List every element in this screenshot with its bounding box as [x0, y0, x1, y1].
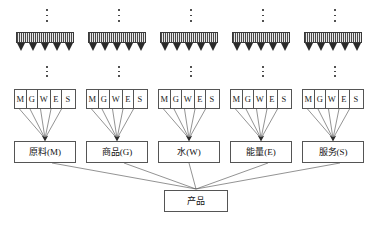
product-box[interactable]: 产品: [164, 190, 228, 212]
ellipsis-dot: [46, 20, 48, 22]
cell-e[interactable]: E: [123, 90, 135, 108]
ellipsis-dot: [334, 9, 336, 11]
cell-w[interactable]: W: [254, 90, 267, 108]
cell-s[interactable]: S: [134, 90, 146, 108]
ellipsis-dot: [190, 15, 192, 17]
resource-box-raw-material[interactable]: 原料(M): [14, 141, 76, 163]
ellipsis-dot: [262, 71, 264, 73]
down-arrow-icon: [305, 43, 313, 51]
ellipsis-dot: [46, 71, 48, 73]
resource-box-goods[interactable]: 商品(G): [86, 141, 148, 163]
source-arrow-row: [17, 43, 73, 51]
cell-w[interactable]: W: [326, 90, 339, 108]
down-arrow-icon: [17, 43, 25, 51]
ellipsis-dot: [118, 15, 120, 17]
cell-w[interactable]: W: [182, 90, 195, 108]
ellipsis-dot: [118, 20, 120, 22]
cell-s[interactable]: S: [62, 90, 74, 108]
cell-w[interactable]: W: [110, 90, 123, 108]
ellipsis-dot: [334, 71, 336, 73]
cell-g[interactable]: G: [99, 90, 111, 108]
down-arrow-icon: [113, 43, 121, 51]
hatched-source-bar: [232, 32, 290, 43]
resource-box-energy[interactable]: 能量(E): [230, 141, 292, 163]
top-ellipsis-icon: [184, 9, 198, 22]
ellipsis-dot: [190, 75, 192, 77]
resource-box-water[interactable]: 水(W): [158, 141, 220, 163]
down-arrow-icon: [329, 43, 337, 51]
middle-ellipsis-icon: [112, 66, 126, 77]
source-arrow-row: [161, 43, 217, 51]
middle-ellipsis-icon: [328, 66, 342, 77]
ellipsis-dot: [46, 15, 48, 17]
cell-s[interactable]: S: [206, 90, 218, 108]
fan-lines-col-m: [20, 109, 62, 139]
down-arrow-icon: [341, 43, 349, 51]
down-arrow-icon: [233, 43, 241, 51]
mgwes-cell-row: M G W E S: [302, 89, 364, 109]
top-ellipsis-icon: [112, 9, 126, 22]
cell-m[interactable]: M: [303, 90, 315, 108]
down-arrow-icon: [197, 43, 205, 51]
cell-s[interactable]: S: [350, 90, 362, 108]
down-arrow-icon: [353, 43, 361, 51]
down-arrow-icon: [137, 43, 145, 51]
ellipsis-dot: [334, 66, 336, 68]
top-ellipsis-icon: [328, 9, 342, 22]
cell-m[interactable]: M: [231, 90, 243, 108]
mgwes-cell-row: M G W E S: [86, 89, 148, 109]
mgwes-cell-row: M G W E S: [14, 89, 76, 109]
down-arrow-icon: [53, 43, 61, 51]
cell-m[interactable]: M: [87, 90, 99, 108]
ellipsis-dot: [46, 75, 48, 77]
down-arrow-icon: [185, 43, 193, 51]
cell-e[interactable]: E: [51, 90, 63, 108]
cell-g[interactable]: G: [315, 90, 327, 108]
ellipsis-dot: [190, 9, 192, 11]
fan-lines-col-g: [92, 109, 134, 139]
ellipsis-dot: [118, 75, 120, 77]
down-arrow-icon: [161, 43, 169, 51]
cell-s[interactable]: S: [278, 90, 290, 108]
down-arrow-icon: [173, 43, 181, 51]
ellipsis-dot: [334, 75, 336, 77]
diagram-canvas: M G W E S 原料(M) M G W: [0, 0, 391, 225]
source-arrow-row: [233, 43, 289, 51]
down-arrow-icon: [101, 43, 109, 51]
cell-g[interactable]: G: [171, 90, 183, 108]
down-arrow-icon: [281, 43, 289, 51]
cell-g[interactable]: G: [243, 90, 255, 108]
down-arrow-icon: [317, 43, 325, 51]
cell-m[interactable]: M: [15, 90, 27, 108]
middle-ellipsis-icon: [40, 66, 54, 77]
fan-lines-col-e: [236, 109, 278, 139]
hatched-source-bar: [16, 32, 74, 43]
cell-w[interactable]: W: [38, 90, 51, 108]
mgwes-cell-row: M G W E S: [230, 89, 292, 109]
down-arrow-icon: [125, 43, 133, 51]
cell-e[interactable]: E: [267, 90, 279, 108]
ellipsis-dot: [334, 20, 336, 22]
down-arrow-icon: [209, 43, 217, 51]
ellipsis-dot: [262, 9, 264, 11]
mgwes-cell-row: M G W E S: [158, 89, 220, 109]
ellipsis-dot: [46, 9, 48, 11]
top-ellipsis-icon: [40, 9, 54, 22]
ellipsis-dot: [262, 15, 264, 17]
cell-e[interactable]: E: [195, 90, 207, 108]
fan-lines-col-s: [308, 109, 350, 139]
source-arrow-row: [305, 43, 361, 51]
cell-e[interactable]: E: [339, 90, 351, 108]
ellipsis-dot: [46, 66, 48, 68]
down-arrow-icon: [89, 43, 97, 51]
top-ellipsis-icon: [256, 9, 270, 22]
ellipsis-dot: [118, 9, 120, 11]
ellipsis-dot: [262, 75, 264, 77]
cell-g[interactable]: G: [27, 90, 39, 108]
cell-m[interactable]: M: [159, 90, 171, 108]
ellipsis-dot: [190, 66, 192, 68]
product-convergence-lines: [52, 163, 340, 189]
ellipsis-dot: [190, 71, 192, 73]
down-arrow-icon: [269, 43, 277, 51]
resource-box-service[interactable]: 服务(S): [302, 141, 364, 163]
